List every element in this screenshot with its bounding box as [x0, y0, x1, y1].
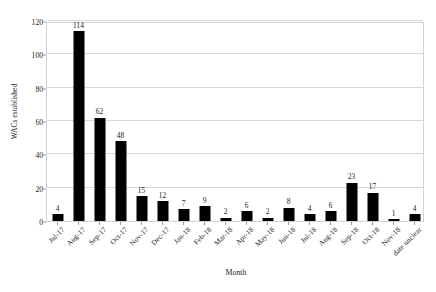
- bar-value-label: 6: [245, 201, 249, 210]
- x-tick-mark: [309, 222, 310, 225]
- bar[interactable]: [157, 201, 168, 221]
- bar[interactable]: [178, 209, 189, 221]
- x-tick-label: Jul-18: [298, 225, 318, 245]
- x-tick-mark: [99, 222, 100, 225]
- x-tick-mark: [183, 222, 184, 225]
- y-tick-label: 120: [13, 18, 43, 27]
- bar-slot: 4: [404, 23, 425, 221]
- x-tick-mark: [372, 222, 373, 225]
- bar-value-label: 4: [308, 204, 312, 213]
- y-tick-label: 40: [13, 151, 43, 160]
- bar-slot: 4: [299, 23, 320, 221]
- bar[interactable]: [136, 196, 147, 221]
- x-tick-mark: [204, 222, 205, 225]
- bar-slot: 6: [320, 23, 341, 221]
- x-tick-mark: [288, 222, 289, 225]
- bar-slot: 1: [383, 23, 404, 221]
- bar-value-label: 114: [73, 21, 84, 30]
- x-tick-label: Jan-18: [171, 225, 192, 246]
- y-tick-label: 60: [13, 118, 43, 127]
- bar-slot: 23: [341, 23, 362, 221]
- bar-value-label: 4: [56, 204, 60, 213]
- bar[interactable]: [367, 193, 378, 221]
- bar-slot: 9: [194, 23, 215, 221]
- bar-value-label: 2: [266, 207, 270, 216]
- bar[interactable]: [94, 118, 105, 221]
- x-tick-label: Jul-17: [46, 225, 66, 245]
- bar-slot: 2: [257, 23, 278, 221]
- bar[interactable]: [388, 219, 399, 221]
- bar-value-label: 62: [96, 107, 103, 116]
- x-tick-label: Oct-18: [360, 225, 381, 246]
- x-tick-mark: [78, 222, 79, 225]
- bar-value-label: 2: [224, 207, 228, 216]
- y-tick-label: 20: [13, 184, 43, 193]
- x-tick-label: Apr-18: [233, 225, 255, 247]
- x-tick-mark: [162, 222, 163, 225]
- chart-figure: WACs established 020406080100120 4114624…: [0, 0, 436, 292]
- bar-slot: 17: [362, 23, 383, 221]
- x-tick-mark: [330, 222, 331, 225]
- x-tick-mark: [225, 222, 226, 225]
- bar[interactable]: [199, 206, 210, 221]
- x-tick-label: May-18: [253, 225, 276, 248]
- bar-value-label: 7: [182, 199, 186, 208]
- bar[interactable]: [346, 183, 357, 221]
- x-tick-label: Aug-18: [316, 225, 339, 248]
- bar-value-label: 12: [159, 191, 166, 200]
- bar[interactable]: [262, 218, 273, 221]
- bar[interactable]: [73, 31, 84, 221]
- bar-value-label: 15: [138, 186, 145, 195]
- bar-slot: 6: [236, 23, 257, 221]
- bar-value-label: 17: [369, 182, 376, 191]
- bar-slot: 48: [110, 23, 131, 221]
- bar[interactable]: [220, 218, 231, 221]
- bar[interactable]: [52, 214, 63, 221]
- x-tick-label: Oct-17: [108, 225, 129, 246]
- x-tick-label: Nov-17: [127, 225, 150, 248]
- bar-value-label: 4: [413, 204, 417, 213]
- bar-slot: 4: [47, 23, 68, 221]
- y-tick-label: 80: [13, 84, 43, 93]
- bar-slot: 62: [89, 23, 110, 221]
- bar-value-label: 6: [329, 201, 333, 210]
- bar[interactable]: [325, 211, 336, 221]
- gridline: [47, 20, 423, 21]
- bar-slot: 114: [68, 23, 89, 221]
- x-tick-label: Sep-18: [338, 225, 360, 247]
- bar-slot: 2: [215, 23, 236, 221]
- x-tick-mark: [246, 222, 247, 225]
- x-tick-mark: [141, 222, 142, 225]
- y-tick-label: 100: [13, 51, 43, 60]
- bar[interactable]: [409, 214, 420, 221]
- x-tick-label: Jun-18: [276, 225, 297, 246]
- bar-value-label: 48: [117, 131, 124, 140]
- x-tick-mark: [351, 222, 352, 225]
- x-tick-mark: [267, 222, 268, 225]
- bar-slot: 8: [278, 23, 299, 221]
- x-tick-label: Dec-17: [149, 225, 171, 247]
- bar-slot: 7: [173, 23, 194, 221]
- bar-value-label: 1: [392, 209, 396, 218]
- plot-area: 41146248151279262846231714: [46, 22, 424, 222]
- x-tick-mark: [120, 222, 121, 225]
- x-tick-label: Aug-17: [64, 225, 87, 248]
- x-tick-mark: [393, 222, 394, 225]
- bar[interactable]: [241, 211, 252, 221]
- bar-slot: 15: [131, 23, 152, 221]
- y-tick-label: 0: [13, 218, 43, 227]
- bar[interactable]: [304, 214, 315, 221]
- bar[interactable]: [115, 141, 126, 221]
- bar-value-label: 9: [203, 196, 207, 205]
- x-tick-label: Mar-18: [212, 225, 234, 247]
- bar-slot: 12: [152, 23, 173, 221]
- x-tick-mark: [57, 222, 58, 225]
- x-axis-title: Month: [0, 268, 436, 277]
- x-tick-mark: [414, 222, 415, 225]
- bar-value-label: 8: [287, 197, 291, 206]
- x-tick-label: Feb-18: [191, 225, 213, 247]
- bar-value-label: 23: [348, 172, 355, 181]
- x-tick-label: Sep-17: [86, 225, 108, 247]
- bar[interactable]: [283, 208, 294, 221]
